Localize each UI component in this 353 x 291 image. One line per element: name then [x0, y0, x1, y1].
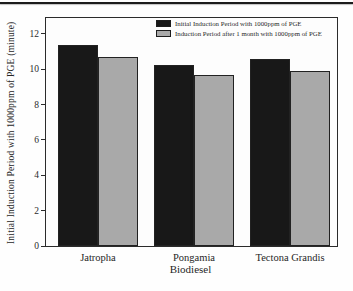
y-tick-label-2: 2	[19, 206, 39, 216]
y-tick-mark-12	[41, 33, 45, 34]
bar-pongamia-initial	[154, 65, 194, 246]
bar-jatropha-after-1-month	[98, 57, 138, 246]
plot-area: Initial Induction Period with 1000ppm of…	[45, 17, 338, 247]
legend-label-after-1-month: Induction Period after 1 month with 1000…	[175, 30, 322, 38]
category-label-pongamia: Pongamia	[154, 252, 234, 263]
y-tick-mark-6	[41, 139, 45, 140]
legend-swatch-after-1-month	[156, 30, 171, 37]
x-axis-label: Biodiesel	[45, 263, 336, 275]
y-tick-label-8: 8	[19, 100, 39, 110]
y-tick-mark-4	[41, 175, 45, 176]
y-tick-label-6: 6	[19, 135, 39, 145]
legend: Initial Induction Period with 1000ppm of…	[156, 19, 322, 39]
page-top-rule	[0, 2, 353, 4]
y-tick-label-4: 4	[19, 170, 39, 180]
y-tick-mark-10	[41, 69, 45, 70]
y-tick-label-12: 12	[19, 29, 39, 39]
legend-swatch-initial	[156, 20, 171, 27]
y-tick-mark-8	[41, 104, 45, 105]
legend-label-initial: Initial Induction Period with 1000ppm of…	[175, 20, 302, 28]
biodiesel-induction-chart: Initial Induction Period with 1000ppm of…	[0, 0, 353, 291]
y-tick-label-0: 0	[19, 241, 39, 251]
y-tick-label-10: 10	[19, 64, 39, 74]
category-label-tectona-grandis: Tectona Grandis	[250, 252, 330, 263]
y-axis-label: Initial Induction Period with 1000ppm of…	[6, 22, 16, 244]
legend-item-initial: Initial Induction Period with 1000ppm of…	[156, 19, 322, 28]
bar-tectona-grandis-after-1-month	[290, 71, 330, 246]
bar-tectona-grandis-initial	[250, 59, 290, 246]
y-tick-mark-0	[41, 246, 45, 247]
bar-jatropha-initial	[58, 45, 98, 246]
bar-pongamia-after-1-month	[194, 75, 234, 246]
y-tick-mark-2	[41, 210, 45, 211]
category-label-jatropha: Jatropha	[58, 252, 138, 263]
legend-item-after-1-month: Induction Period after 1 month with 1000…	[156, 29, 322, 38]
